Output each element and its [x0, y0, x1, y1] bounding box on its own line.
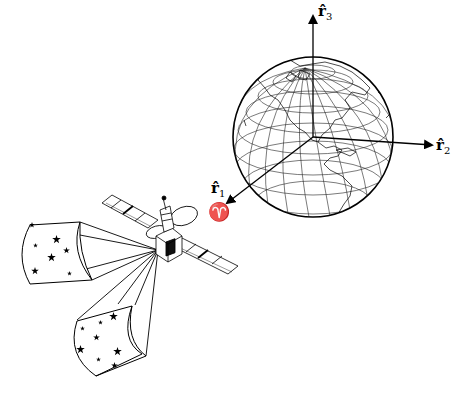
- axis-label-r3: r̂3: [318, 4, 332, 22]
- axis-label-r2-base: r̂: [436, 136, 444, 154]
- axis-label-r2-sub: 2: [444, 145, 450, 156]
- diagram-canvas: r̂3 r̂2 r̂1 ♈: [0, 0, 467, 396]
- diagram-svg: [0, 0, 467, 396]
- solar-panel-left: [102, 195, 158, 228]
- axis-label-r1: r̂1: [211, 181, 225, 199]
- earth-globe: [233, 57, 395, 229]
- axis-label-r2: r̂2: [436, 138, 450, 156]
- star-field-lower: [74, 306, 146, 376]
- axis-label-r3-base: r̂: [318, 2, 326, 20]
- star-field-upper-left: [22, 222, 92, 284]
- axis-label-r3-sub: 3: [326, 11, 332, 22]
- axis-label-r1-base: r̂: [211, 179, 219, 197]
- axis-label-r1-sub: 1: [219, 188, 225, 199]
- vernal-equinox-icon: ♈: [208, 203, 230, 221]
